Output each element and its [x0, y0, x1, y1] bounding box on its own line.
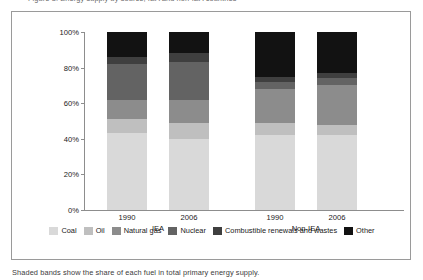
- bar-segment[interactable]: [255, 89, 295, 123]
- x-axis-tick-label: 1990: [97, 213, 157, 222]
- bar-segment[interactable]: [317, 78, 357, 85]
- legend-label: Natural gas: [124, 226, 162, 235]
- chart-legend: CoalOilNatural gasNuclearCombustible ren…: [12, 226, 412, 235]
- y-axis-tick-label: 100%: [24, 28, 84, 37]
- y-axis-tick-label: 40%: [24, 134, 84, 143]
- top-clipped-caption: Figure 3. Energy supply by source, IEA a…: [28, 0, 237, 3]
- bar-segment[interactable]: [169, 32, 209, 53]
- bar-segment[interactable]: [255, 32, 295, 77]
- bar-segment[interactable]: [169, 53, 209, 62]
- legend-item[interactable]: Combustible renewals and wastes: [213, 226, 337, 235]
- y-axis-tick-label: 0%: [24, 206, 84, 215]
- bottom-clipped-note-area: Shaded bands show the share of each fuel…: [0, 266, 423, 280]
- bar-segment[interactable]: [255, 82, 295, 89]
- bottom-clipped-note: Shaded bands show the share of each fuel…: [12, 268, 259, 277]
- legend-label: Nuclear: [180, 226, 205, 235]
- bar-segment[interactable]: [107, 133, 147, 210]
- bar-segment[interactable]: [169, 139, 209, 210]
- stacked-bar[interactable]: [255, 32, 295, 210]
- bar-segment[interactable]: [107, 100, 147, 120]
- bar-segment[interactable]: [169, 62, 209, 99]
- x-axis-line: [84, 210, 404, 211]
- stacked-bar[interactable]: [317, 32, 357, 210]
- legend-swatch: [213, 227, 222, 235]
- x-axis-tick-label: 2006: [307, 213, 367, 222]
- legend-swatch: [112, 227, 121, 235]
- legend-label: Coal: [61, 226, 76, 235]
- bar-segment[interactable]: [169, 100, 209, 123]
- legend-item[interactable]: Nuclear: [168, 226, 205, 235]
- legend-swatch: [344, 227, 353, 235]
- bar-segment[interactable]: [107, 119, 147, 133]
- legend-item[interactable]: Coal: [49, 226, 76, 235]
- legend-swatch: [84, 227, 93, 235]
- y-axis-tick-mark: [81, 174, 84, 175]
- y-axis-tick-label: 20%: [24, 170, 84, 179]
- y-axis-tick-mark: [81, 139, 84, 140]
- bar-segment[interactable]: [317, 85, 357, 124]
- legend-label: Oil: [96, 226, 105, 235]
- bar-segment[interactable]: [107, 57, 147, 64]
- top-clipped-caption-area: Figure 3. Energy supply by source, IEA a…: [0, 0, 423, 11]
- y-axis-line: [84, 32, 85, 211]
- legend-item[interactable]: Oil: [84, 226, 105, 235]
- legend-label: Other: [356, 226, 374, 235]
- figure-root: Figure 3. Energy supply by source, IEA a…: [0, 0, 423, 280]
- bar-segment[interactable]: [255, 123, 295, 135]
- stacked-bar[interactable]: [169, 32, 209, 210]
- y-axis-tick-label: 60%: [24, 99, 84, 108]
- bar-segment[interactable]: [107, 64, 147, 100]
- bar-segment[interactable]: [317, 125, 357, 136]
- legend-item[interactable]: Natural gas: [112, 226, 162, 235]
- bar-segment[interactable]: [169, 123, 209, 139]
- y-axis-tick-mark: [81, 32, 84, 33]
- bar-segment[interactable]: [317, 135, 357, 210]
- bar-segment[interactable]: [317, 32, 357, 73]
- y-axis-tick-mark: [81, 68, 84, 69]
- legend-swatch: [168, 227, 177, 235]
- bar-segment[interactable]: [255, 135, 295, 210]
- plot-area: 0%20%40%60%80%100% 1990200619902006 IEAN…: [84, 32, 404, 210]
- legend-label: Combustible renewals and wastes: [225, 226, 337, 235]
- stacked-bar[interactable]: [107, 32, 147, 210]
- y-axis-tick-mark: [81, 103, 84, 104]
- legend-swatch: [49, 227, 58, 235]
- x-axis-tick-label: 1990: [245, 213, 305, 222]
- y-axis-tick-label: 80%: [24, 63, 84, 72]
- x-axis-tick-label: 2006: [159, 213, 219, 222]
- bar-segment[interactable]: [107, 32, 147, 57]
- legend-item[interactable]: Other: [344, 226, 374, 235]
- y-axis-tick-mark: [81, 210, 84, 211]
- chart-frame: 0%20%40%60%80%100% 1990200619902006 IEAN…: [11, 11, 411, 260]
